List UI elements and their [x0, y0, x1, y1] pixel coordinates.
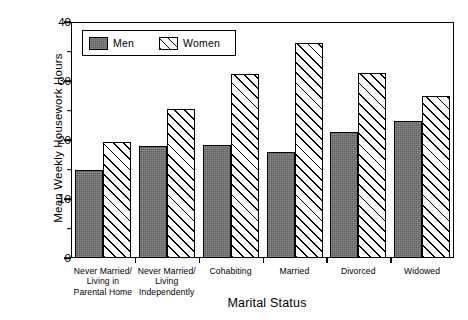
bar-women [295, 43, 323, 258]
x-axis-title: Marital Status [0, 296, 468, 310]
bar-group [326, 22, 390, 258]
bar-women [422, 96, 450, 258]
legend-label-women: Women [183, 37, 220, 49]
x-tick-label-line: Living [124, 276, 210, 286]
x-tick-label-line: Widowed [379, 266, 465, 276]
legend-label-men: Men [113, 37, 134, 49]
bar-men [203, 145, 231, 258]
bar-women [231, 74, 259, 258]
x-tick [390, 258, 392, 263]
bar-men [139, 146, 167, 258]
bar-women [167, 109, 195, 258]
bar-women [358, 73, 386, 258]
y-tick-label: 40 [41, 16, 71, 28]
x-tick [263, 258, 265, 263]
y-tick-label: 10 [41, 193, 71, 205]
bar-group [71, 22, 135, 258]
bar-men [394, 121, 422, 258]
x-tick-label: Widowed [379, 266, 465, 276]
bar-group [390, 22, 454, 258]
legend-item-women: Women [159, 35, 220, 51]
bar-men [330, 132, 358, 258]
x-tick [199, 258, 201, 263]
bar-group [135, 22, 199, 258]
y-tick-label: 30 [41, 75, 71, 87]
bar-chart-figure: Mean Weekly Housework Hours 010203040 Ne… [0, 0, 468, 320]
legend: Men Women [82, 30, 236, 56]
y-tick-label: 0 [41, 252, 71, 264]
x-tick [326, 258, 328, 263]
bar-series-container [71, 22, 454, 258]
bar-men [267, 152, 295, 258]
bar-men [75, 170, 103, 258]
bar-group [263, 22, 327, 258]
legend-item-men: Men [89, 35, 134, 51]
x-tick [135, 258, 137, 263]
legend-swatch-men-icon [89, 37, 108, 50]
bar-women [103, 142, 131, 258]
y-tick-label: 20 [41, 134, 71, 146]
bar-group [199, 22, 263, 258]
legend-swatch-women-icon [159, 37, 178, 50]
x-axis-title-text: Marital Status [227, 296, 306, 310]
